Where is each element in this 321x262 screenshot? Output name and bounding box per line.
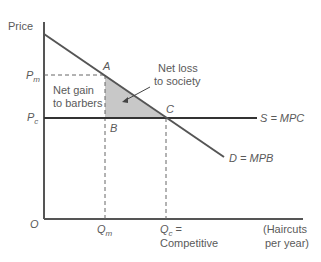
point-b-label: B <box>110 122 117 134</box>
qc-note: Competitive <box>160 237 218 249</box>
pm-label: Pm <box>26 69 40 84</box>
y-axis-label: Price <box>8 20 33 32</box>
origin-label: O <box>30 218 39 230</box>
monopoly-deadweight-diagram: Price O (Haircuts per year) Pm Pc Qm Qc … <box>0 0 321 262</box>
pc-label: Pc <box>27 111 38 126</box>
x-axis-label-line2: per year) <box>265 237 309 249</box>
gain-label-line2: to barbers <box>53 97 103 109</box>
x-axis-label-line1: (Haircuts <box>263 223 308 235</box>
point-a-label: A <box>102 60 110 72</box>
qm-label: Qm <box>97 223 113 238</box>
loss-label-line2: to society <box>154 75 201 87</box>
point-c-label: C <box>166 103 174 115</box>
qc-label: Qc = <box>160 223 182 238</box>
loss-label-line1: Net loss <box>158 62 198 74</box>
gain-label-line1: Net gain <box>53 84 94 96</box>
supply-label: S = MPC <box>260 112 304 124</box>
demand-label: D = MPB <box>229 152 273 164</box>
